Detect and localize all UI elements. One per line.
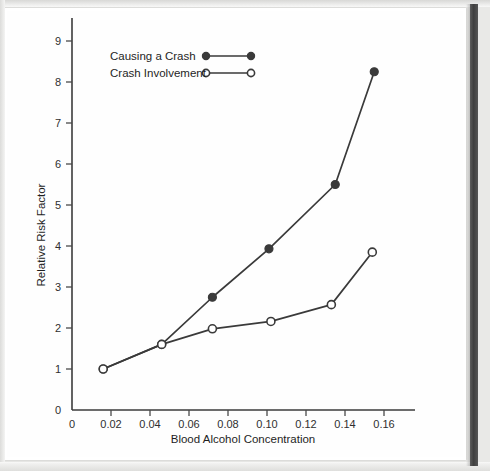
y-tick-label-4: 4	[55, 240, 61, 252]
data-point	[208, 293, 216, 301]
x-axis-title: Blood Alcohol Concentration	[171, 433, 316, 445]
x-tick-label-0.16: 0.16	[373, 418, 394, 430]
data-point	[265, 245, 273, 253]
y-tick-label-9: 9	[55, 35, 61, 47]
data-point	[327, 301, 335, 309]
data-point	[267, 317, 275, 325]
x-tick-label-0.04: 0.04	[139, 418, 160, 430]
legend-item-crash-involvement: Crash Involvement	[110, 67, 255, 79]
y-tick-label-0: 0	[55, 404, 61, 416]
data-point	[99, 365, 107, 373]
series-causing-a-crash	[99, 68, 378, 373]
data-point	[370, 68, 378, 76]
chart-legend: Causing a Crash Crash Involvement	[110, 50, 255, 79]
y-tick-label-8: 8	[55, 76, 61, 88]
series-line-crash-involvement	[103, 252, 372, 369]
x-tick-label-0: 0	[69, 418, 75, 430]
line-chart: 0123456789 00.020.040.060.080.100.120.14…	[0, 0, 490, 471]
y-axis-title: Relative Risk Factor	[35, 183, 47, 286]
series-line-causing-a-crash	[103, 72, 374, 369]
series-group	[99, 68, 378, 373]
data-point	[158, 340, 166, 348]
y-tick-label-6: 6	[55, 158, 61, 170]
legend-label-crash-involvement: Crash Involvement	[110, 67, 207, 79]
y-tick-label-7: 7	[55, 117, 61, 129]
legend-marker-filled-left	[202, 52, 209, 59]
x-axis-ticks: 00.020.040.060.080.100.120.140.16	[69, 410, 395, 430]
y-axis-ticks: 0123456789	[55, 35, 72, 416]
x-tick-label-0.12: 0.12	[295, 418, 316, 430]
x-tick-label-0.14: 0.14	[334, 418, 355, 430]
y-tick-label-1: 1	[55, 363, 61, 375]
y-tick-label-5: 5	[55, 199, 61, 211]
y-tick-label-2: 2	[55, 322, 61, 334]
scanned-page-figure: 0123456789 00.020.040.060.080.100.120.14…	[0, 0, 490, 471]
legend-label-causing-a-crash: Causing a Crash	[110, 50, 196, 62]
data-point	[368, 248, 376, 256]
y-tick-label-3: 3	[55, 281, 61, 293]
legend-marker-filled-right	[247, 52, 254, 59]
x-tick-label-0.02: 0.02	[100, 418, 121, 430]
x-tick-label-0.08: 0.08	[217, 418, 238, 430]
legend-marker-open-right	[247, 69, 254, 76]
x-tick-label-0.10: 0.10	[256, 418, 277, 430]
chart-svg: 0123456789 00.020.040.060.080.100.120.14…	[0, 0, 490, 471]
legend-item-causing-a-crash: Causing a Crash	[110, 50, 255, 62]
data-point	[208, 325, 216, 333]
data-point	[331, 181, 339, 189]
series-crash-involvement	[99, 248, 376, 373]
x-tick-label-0.06: 0.06	[178, 418, 199, 430]
